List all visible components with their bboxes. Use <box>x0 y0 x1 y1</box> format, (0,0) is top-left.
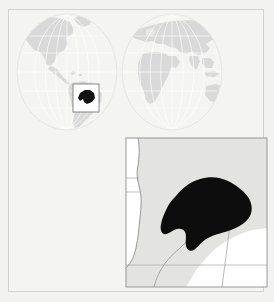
map-canvas <box>0 0 274 302</box>
world-locator-map <box>17 14 237 130</box>
western-hemisphere <box>17 14 117 130</box>
locator-box[interactable] <box>73 84 99 112</box>
eastern-hemisphere <box>122 14 237 130</box>
figure-container: Western Hemisphere Eastern Hemisphere De… <box>0 0 274 302</box>
inset-detail-map[interactable] <box>126 138 267 287</box>
